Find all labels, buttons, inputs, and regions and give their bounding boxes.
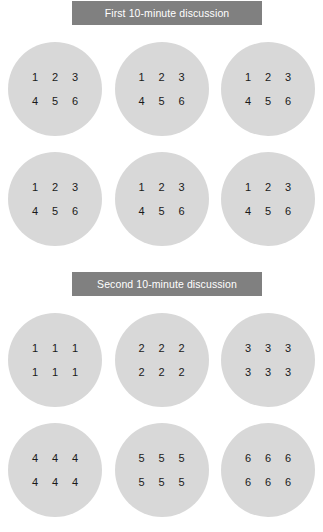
member-grid: 1 2 3 4 5 6 <box>238 175 298 223</box>
member-number: 2 <box>158 367 164 378</box>
member-number: 1 <box>245 72 251 83</box>
member-grid: 6 6 6 6 6 6 <box>238 446 298 494</box>
member-number: 5 <box>265 96 271 107</box>
member-number: 6 <box>245 477 251 488</box>
circle-row: 1 2 3 4 5 6 1 2 3 4 5 6 1 2 3 4 <box>0 42 323 136</box>
member-number: 2 <box>52 72 58 83</box>
member-number: 2 <box>158 343 164 354</box>
discussion-group-circle: 5 5 5 5 5 5 <box>115 423 209 517</box>
member-number: 3 <box>285 343 291 354</box>
member-number: 5 <box>52 96 58 107</box>
member-number: 4 <box>72 453 78 464</box>
member-number: 4 <box>32 206 38 217</box>
member-number: 5 <box>158 96 164 107</box>
discussion-group-circle: 1 2 3 4 5 6 <box>8 152 102 246</box>
member-number: 6 <box>265 453 271 464</box>
member-number: 4 <box>138 96 144 107</box>
member-number: 5 <box>178 453 184 464</box>
member-number: 2 <box>158 72 164 83</box>
member-grid: 1 2 3 4 5 6 <box>132 175 192 223</box>
member-number: 4 <box>245 206 251 217</box>
member-number: 3 <box>265 367 271 378</box>
member-number: 6 <box>285 453 291 464</box>
member-number: 4 <box>32 453 38 464</box>
member-number: 3 <box>72 182 78 193</box>
member-number: 6 <box>265 477 271 488</box>
member-number: 4 <box>32 477 38 488</box>
discussion-group-circle: 1 2 3 4 5 6 <box>115 152 209 246</box>
member-number: 4 <box>245 96 251 107</box>
member-number: 4 <box>52 477 58 488</box>
member-number: 4 <box>52 453 58 464</box>
member-number: 2 <box>138 367 144 378</box>
member-number: 3 <box>265 343 271 354</box>
member-grid: 1 2 3 4 5 6 <box>25 175 85 223</box>
member-grid: 1 2 3 4 5 6 <box>132 65 192 113</box>
circle-row: 1 2 3 4 5 6 1 2 3 4 5 6 1 2 3 4 <box>0 152 323 246</box>
member-number: 1 <box>32 367 38 378</box>
member-number: 2 <box>178 367 184 378</box>
member-number: 3 <box>245 343 251 354</box>
member-number: 5 <box>158 206 164 217</box>
member-number: 3 <box>285 72 291 83</box>
member-number: 1 <box>32 343 38 354</box>
member-number: 1 <box>245 182 251 193</box>
member-number: 5 <box>178 477 184 488</box>
discussion-group-circle: 1 1 1 1 1 1 <box>8 313 102 407</box>
member-number: 6 <box>245 453 251 464</box>
member-number: 6 <box>72 206 78 217</box>
member-grid: 1 2 3 4 5 6 <box>238 65 298 113</box>
member-number: 3 <box>285 182 291 193</box>
member-number: 6 <box>178 206 184 217</box>
member-number: 2 <box>138 343 144 354</box>
member-number: 1 <box>52 367 58 378</box>
member-number: 6 <box>178 96 184 107</box>
discussion-group-circle: 1 2 3 4 5 6 <box>221 152 315 246</box>
member-number: 1 <box>72 367 78 378</box>
circle-row: 1 1 1 1 1 1 2 2 2 2 2 2 3 3 3 3 <box>0 313 323 407</box>
section-header-first-discussion: First 10-minute discussion <box>72 1 262 25</box>
member-number: 1 <box>138 72 144 83</box>
member-number: 5 <box>158 453 164 464</box>
member-grid: 1 2 3 4 5 6 <box>25 65 85 113</box>
member-number: 6 <box>285 96 291 107</box>
member-number: 2 <box>158 182 164 193</box>
member-number: 1 <box>72 343 78 354</box>
member-number: 5 <box>265 206 271 217</box>
member-number: 1 <box>138 182 144 193</box>
member-number: 2 <box>178 343 184 354</box>
member-number: 2 <box>265 182 271 193</box>
member-number: 1 <box>52 343 58 354</box>
discussion-group-circle: 6 6 6 6 6 6 <box>221 423 315 517</box>
discussion-group-circle: 4 4 4 4 4 4 <box>8 423 102 517</box>
member-number: 5 <box>138 477 144 488</box>
member-number: 1 <box>32 72 38 83</box>
member-number: 2 <box>265 72 271 83</box>
section-header-second-discussion: Second 10-minute discussion <box>72 272 262 296</box>
discussion-group-circle: 1 2 3 4 5 6 <box>8 42 102 136</box>
member-grid: 1 1 1 1 1 1 <box>25 336 85 384</box>
discussion-group-circle: 3 3 3 3 3 3 <box>221 313 315 407</box>
member-number: 6 <box>72 96 78 107</box>
member-number: 4 <box>72 477 78 488</box>
discussion-group-circle: 2 2 2 2 2 2 <box>115 313 209 407</box>
member-number: 5 <box>158 477 164 488</box>
member-number: 5 <box>52 206 58 217</box>
member-number: 2 <box>52 182 58 193</box>
member-number: 5 <box>138 453 144 464</box>
member-number: 6 <box>285 477 291 488</box>
member-number: 4 <box>32 96 38 107</box>
member-number: 3 <box>178 182 184 193</box>
jigsaw-discussion-diagram: First 10-minute discussion 1 2 3 4 5 6 1… <box>0 0 323 532</box>
member-number: 6 <box>285 206 291 217</box>
discussion-group-circle: 1 2 3 4 5 6 <box>221 42 315 136</box>
member-grid: 2 2 2 2 2 2 <box>132 336 192 384</box>
member-number: 3 <box>72 72 78 83</box>
member-grid: 5 5 5 5 5 5 <box>132 446 192 494</box>
member-number: 3 <box>178 72 184 83</box>
circle-row: 4 4 4 4 4 4 5 5 5 5 5 5 6 6 6 6 <box>0 423 323 517</box>
member-grid: 4 4 4 4 4 4 <box>25 446 85 494</box>
member-number: 3 <box>245 367 251 378</box>
discussion-group-circle: 1 2 3 4 5 6 <box>115 42 209 136</box>
member-number: 3 <box>285 367 291 378</box>
